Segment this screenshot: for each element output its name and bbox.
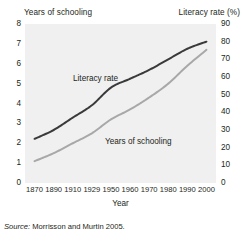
right-axis-tick: 60	[221, 73, 230, 81]
left-axis-tick: 2	[16, 139, 21, 147]
right-axis-tick: 30	[221, 126, 230, 134]
left-axis-ticks: 012345678	[3, 24, 23, 183]
right-axis-tick: 90	[221, 20, 230, 28]
left-axis-tick: 6	[16, 60, 21, 68]
left-axis-tick: 7	[16, 40, 21, 48]
right-axis-tick: 50	[221, 91, 230, 99]
left-axis-title: Years of schooling	[24, 8, 92, 17]
source-citation: Morrisson and Murtin 2005.	[30, 222, 125, 231]
x-axis-tick: 1990	[179, 186, 196, 194]
x-axis-tick: 1929	[83, 186, 100, 194]
right-axis-tick: 10	[221, 161, 230, 169]
x-axis-tick: 1890	[45, 186, 62, 194]
x-axis-tick: 1870	[26, 186, 43, 194]
right-axis-tick: 70	[221, 55, 230, 63]
series-label-literacy: Literacy rate	[73, 74, 118, 83]
x-axis-label: Year	[25, 199, 216, 208]
source-prefix: Source:	[4, 222, 30, 231]
series-line-literacy	[35, 42, 207, 139]
x-axis-tick: 1970	[141, 186, 158, 194]
left-axis-tick: 4	[16, 100, 21, 108]
x-axis-ticks: 1870189019101929195019601970198019902000	[25, 186, 216, 198]
x-axis-tick: 1950	[102, 186, 119, 194]
right-axis-tick: 0	[221, 179, 226, 187]
x-axis-tick: 1910	[64, 186, 81, 194]
series-label-schooling: Years of schooling	[105, 137, 172, 146]
source-note: Source: Morrisson and Murtin 2005.	[4, 222, 125, 231]
right-axis-tick: 40	[221, 108, 230, 116]
left-axis-tick: 0	[16, 179, 21, 187]
right-axis-tick: 20	[221, 144, 230, 152]
x-axis-tick: 2000	[198, 186, 215, 194]
right-axis-ticks: 0102030405060708090	[219, 24, 239, 183]
figure-container: Years of schooling Literacy rate (%) 012…	[0, 0, 246, 241]
right-axis-tick: 80	[221, 38, 230, 46]
right-axis-title: Literacy rate (%)	[179, 8, 240, 17]
x-axis-tick: 1960	[122, 186, 139, 194]
left-axis-tick: 5	[16, 80, 21, 88]
left-axis-tick: 8	[16, 20, 21, 28]
plot-area	[25, 24, 216, 183]
x-axis-tick: 1980	[160, 186, 177, 194]
plot-svg	[25, 24, 216, 183]
left-axis-tick: 1	[16, 159, 21, 167]
left-axis-tick: 3	[16, 119, 21, 127]
